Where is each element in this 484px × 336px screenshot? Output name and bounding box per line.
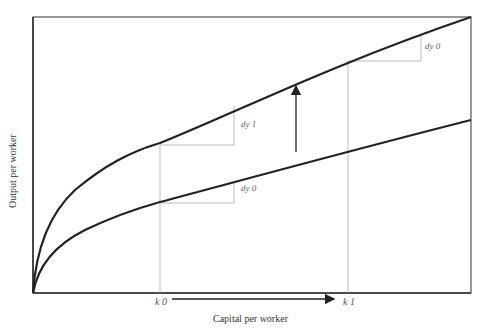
curve-break-lower (293, 152, 304, 159)
dy0-upper-label: dy 0 (425, 41, 440, 51)
y-axis-title: Output per worker (7, 134, 18, 208)
dy1-label: dy 1 (241, 119, 256, 129)
dy0-lower-label: dy 0 (241, 183, 256, 193)
x-axis-title: Capital per worker (213, 313, 288, 324)
upper-production-curve (33, 17, 471, 293)
diagram-canvas (0, 0, 484, 336)
lower-production-curve (33, 120, 471, 293)
plot-frame (33, 17, 471, 293)
k1-tick-label: k 1 (343, 296, 355, 307)
k0-tick-label: k 0 (155, 296, 167, 307)
